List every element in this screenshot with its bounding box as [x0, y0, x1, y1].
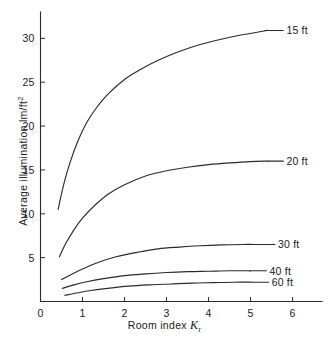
series-label-40-ft: 40 ft: [270, 265, 291, 277]
series-label-15-ft: 15 ft: [286, 24, 307, 36]
x-axis-ticks: [83, 297, 293, 302]
y-axis-title-text: Average illumination lm/ft: [17, 101, 29, 226]
x-axis-title: Room index Kr: [0, 318, 329, 333]
series-label-30-ft: 30 ft: [278, 238, 299, 250]
curve-40-ft: [62, 271, 250, 289]
curve-30-ft: [62, 244, 259, 279]
curve-20-ft: [59, 161, 267, 257]
x-axis-title-text: Room index: [128, 319, 187, 331]
y-axis-ticks: [41, 38, 46, 257]
series-label-60-ft: 60 ft: [272, 276, 293, 288]
data-curves: [58, 30, 267, 295]
x-axis-title-symbol: Kr: [190, 318, 201, 332]
y-tick-label: 5: [6, 252, 35, 264]
x-tick-label: 1: [79, 307, 85, 319]
series-label-20-ft: 20 ft: [286, 155, 307, 167]
axes: [41, 12, 323, 302]
curve-15-ft: [58, 30, 267, 209]
x-axis-symbol-subscript: r: [198, 325, 201, 334]
curve-60-ft: [65, 282, 253, 295]
x-tick-label: 4: [206, 307, 212, 319]
y-axis-title-exponent: 2: [16, 96, 25, 100]
y-axis-title: Average illumination lm/ft2: [17, 86, 29, 236]
x-tick-label: 2: [121, 307, 127, 319]
chart-figure: 51015202530 0123456 15 ft20 ft30 ft40 ft…: [0, 0, 329, 338]
x-tick-label: 6: [290, 307, 296, 319]
x-tick-label: 0: [37, 307, 43, 319]
x-tick-label: 5: [248, 307, 254, 319]
x-tick-label: 3: [164, 307, 170, 319]
y-tick-label: 30: [6, 32, 35, 44]
